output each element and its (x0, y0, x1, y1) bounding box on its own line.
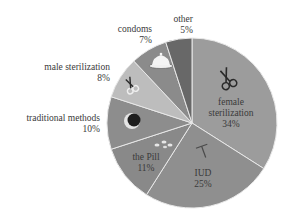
label-percent: 8% (20, 73, 110, 84)
label-name: the Pill (124, 152, 168, 163)
label-name: female (204, 97, 258, 108)
label-name: male sterilization (20, 62, 110, 73)
label-percent: 34% (204, 119, 258, 130)
label-other: other 5% (160, 14, 193, 36)
label-percent: 11% (124, 163, 168, 174)
label-condoms: condoms 7% (100, 24, 152, 46)
label-name: sterilization (204, 108, 258, 119)
label-traditional-methods: traditional methods 10% (6, 113, 100, 135)
label-percent: 7% (100, 35, 152, 46)
label-iud: IUD 25% (188, 168, 218, 190)
label-name: condoms (100, 24, 152, 35)
label-name: IUD (188, 168, 218, 179)
label-female-sterilization: female sterilization 34% (204, 97, 258, 130)
label-percent: 5% (160, 25, 193, 36)
label-percent: 25% (188, 179, 218, 190)
label-male-sterilization: male sterilization 8% (20, 62, 110, 84)
label-percent: 10% (6, 124, 100, 135)
label-pill: the Pill 11% (124, 152, 168, 174)
label-name: traditional methods (6, 113, 100, 124)
label-name: other (160, 14, 193, 25)
